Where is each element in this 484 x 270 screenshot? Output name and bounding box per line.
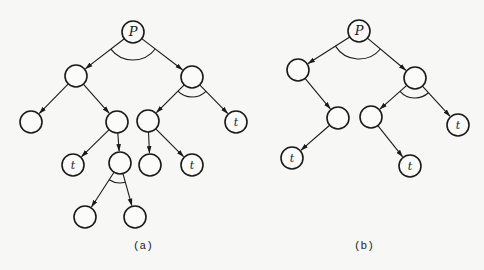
node-label: t — [456, 119, 461, 132]
and-arc-P — [111, 49, 155, 60]
edge-b11-b111 — [301, 125, 330, 150]
edge-a12-a122 — [118, 133, 119, 151]
tree-node — [124, 206, 146, 228]
node-label: t — [190, 159, 195, 172]
tree-node — [20, 111, 42, 133]
tree-b: Pttt — [281, 20, 469, 177]
node-label: P — [128, 24, 138, 39]
tree-node — [404, 67, 426, 89]
and-arc-P — [335, 46, 380, 59]
tree-node — [65, 65, 87, 87]
caption-a: (a) — [133, 240, 153, 252]
edge-P-a1 — [85, 39, 124, 69]
edge-b1-b11 — [305, 78, 330, 108]
node-label: t — [234, 116, 239, 129]
tree-node — [137, 110, 159, 132]
edge-a1-a11 — [39, 84, 68, 114]
edge-P-b1 — [308, 37, 350, 64]
tree-node — [106, 111, 128, 133]
edge-a122-a1222 — [123, 174, 132, 206]
node-label: P — [354, 23, 364, 38]
tree-node — [360, 106, 382, 128]
edge-a21-a211 — [148, 132, 149, 153]
node-label: t — [71, 159, 76, 172]
and-arc-a122 — [109, 180, 125, 183]
edge-a2-a21 — [156, 85, 184, 113]
edge-b2-b21 — [380, 85, 407, 109]
tree-node — [74, 206, 96, 228]
tree-node — [287, 59, 309, 81]
edge-a2-a22 — [200, 85, 228, 114]
edge-b21-b211 — [378, 126, 403, 157]
and-arc-b2 — [400, 91, 428, 98]
edge-P-a2 — [142, 39, 183, 70]
tree-node — [139, 154, 161, 176]
edge-a21-a212 — [156, 129, 184, 157]
caption-b: (b) — [354, 240, 374, 252]
tree-node — [109, 152, 131, 174]
edge-a12-a121 — [82, 130, 110, 157]
tree-node — [327, 107, 349, 129]
edge-a1-a12 — [83, 84, 109, 113]
and-arc-a2 — [178, 91, 206, 97]
node-label: t — [408, 160, 413, 173]
edge-P-b2 — [367, 38, 405, 70]
edge-b2-b22 — [422, 86, 449, 116]
diagram-canvas: Pttt Pttt — [0, 0, 484, 270]
edge-a122-a1221 — [92, 172, 114, 207]
tree-node — [181, 66, 203, 88]
node-label: t — [290, 152, 295, 165]
tree-a: Pttt — [20, 21, 247, 228]
